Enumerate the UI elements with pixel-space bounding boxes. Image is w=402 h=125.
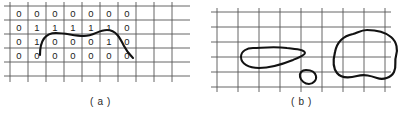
grid-cell-digit: 0: [70, 8, 75, 19]
grid-cell-digit: 1: [52, 22, 57, 33]
grid-cell-digit: 0: [52, 8, 57, 19]
panel-a-caption: ( a ): [0, 96, 201, 107]
grid-cell-digit: 1: [34, 22, 39, 33]
grid-cell-digit: 0: [88, 50, 93, 61]
digit-row: 0 0 0 0 0 0 0: [16, 8, 129, 19]
grid-cell-digit: 0: [88, 36, 93, 47]
grid-cell-digit: 0: [124, 22, 129, 33]
grid-cell-digit: 0: [124, 8, 129, 19]
grid-cell-digit: 0: [16, 8, 21, 19]
grid-cell-digit: 0: [70, 50, 75, 61]
grid-cell-digit: 0: [52, 50, 57, 61]
grid-cell-digit: 0: [16, 22, 21, 33]
panel-a-canvas: 0 0 0 0 0 0 0 0 1 1 1 1 1 0 0 1: [0, 0, 201, 100]
grid-cell-digit: 0: [106, 50, 111, 61]
grid-cell-digit: 0: [16, 36, 21, 47]
teardrop-blob: [241, 47, 305, 68]
grid-cell-digit: 1: [106, 36, 111, 47]
grid-cell-digit: 1: [70, 22, 75, 33]
figure-panel-a: 0 0 0 0 0 0 0 0 1 1 1 1 1 0 0 1: [0, 0, 201, 125]
grid-cell-digit: 0: [70, 36, 75, 47]
panel-a-grid: [4, 2, 190, 82]
figure-panel-b: ( b ): [201, 0, 402, 125]
grid-cell-digit: 0: [52, 36, 57, 47]
grid-cell-digit: 0: [106, 8, 111, 19]
grid-cell-digit: 0: [34, 8, 39, 19]
grid-cell-digit: 1: [34, 36, 39, 47]
panel-b-canvas: [201, 0, 402, 100]
grid-cell-digit: 0: [124, 36, 129, 47]
grid-cell-digit: 1: [88, 22, 93, 33]
figure-root: 0 0 0 0 0 0 0 0 1 1 1 1 1 0 0 1: [0, 0, 402, 125]
panel-b-caption: ( b ): [201, 96, 402, 107]
digit-row: 0 0 0 0 0 0 0: [16, 50, 129, 61]
digit-row: 0 1 0 0 0 1 0: [16, 36, 129, 47]
grid-cell-digit: 0: [16, 50, 21, 61]
grid-cell-digit: 0: [88, 8, 93, 19]
grid-cell-digit: 0: [34, 50, 39, 61]
